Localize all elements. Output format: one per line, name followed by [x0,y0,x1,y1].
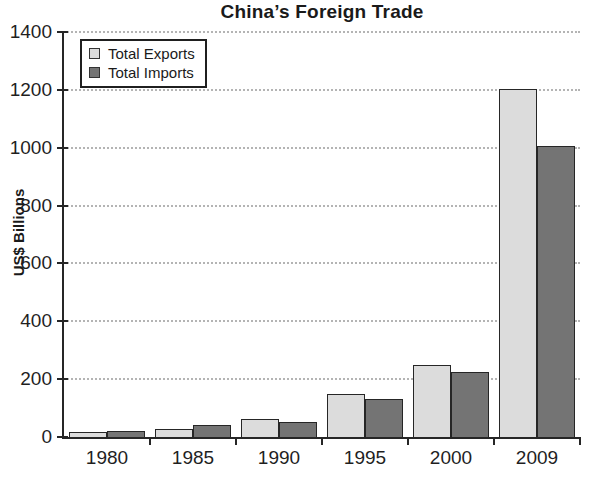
y-tick-600 [57,262,68,264]
chart-figure: China’s Foreign Trade US$ Billions Total… [0,0,592,479]
bar-imports-1985 [193,425,231,437]
legend-item-exports: Total Exports [89,45,195,62]
y-tick-label-600: 600 [6,253,52,273]
imports-swatch-icon [89,67,100,78]
y-tick-label-800: 800 [6,196,52,216]
x-tick-1 [149,437,151,445]
x-tick-label-1990: 1990 [236,447,322,469]
x-tick-6 [579,437,581,445]
y-tick-0 [57,436,68,438]
y-tick-label-1000: 1000 [6,138,52,158]
bar-imports-1980 [107,431,145,437]
y-tick-1400 [57,31,68,33]
x-tick-4 [407,437,409,445]
x-tick-label-2009: 2009 [494,447,580,469]
bar-exports-2009 [499,89,537,437]
y-tick-800 [57,205,68,207]
legend: Total Exports Total Imports [80,39,207,88]
gridline-1400 [64,31,580,33]
y-tick-200 [57,378,68,380]
x-tick-label-2000: 2000 [408,447,494,469]
bar-exports-1990 [241,419,279,437]
x-tick-3 [321,437,323,445]
plot-area: Total Exports Total Imports 020040060080… [64,32,580,437]
y-tick-400 [57,320,68,322]
x-tick-label-1995: 1995 [322,447,408,469]
bar-imports-2009 [537,146,575,437]
x-tick-label-1985: 1985 [150,447,236,469]
bar-imports-2000 [451,372,489,437]
x-tick-label-1980: 1980 [64,447,150,469]
bar-imports-1990 [279,422,317,437]
y-tick-label-1400: 1400 [6,22,52,42]
bar-exports-1995 [327,394,365,437]
legend-item-imports: Total Imports [89,64,195,81]
x-tick-2 [235,437,237,445]
y-tick-label-200: 200 [6,369,52,389]
legend-label-exports: Total Exports [108,45,195,62]
y-tick-1200 [57,89,68,91]
y-axis-line [62,32,64,437]
chart-title: China’s Foreign Trade [64,1,580,23]
legend-label-imports: Total Imports [108,64,194,81]
exports-swatch-icon [89,48,100,59]
y-tick-label-400: 400 [6,311,52,331]
bar-imports-1995 [365,399,403,437]
x-tick-5 [493,437,495,445]
bar-exports-1985 [155,429,193,437]
bar-exports-1980 [69,432,107,437]
y-tick-label-1200: 1200 [6,80,52,100]
bar-exports-2000 [413,365,451,437]
y-tick-1000 [57,147,68,149]
y-tick-label-0: 0 [6,427,52,447]
